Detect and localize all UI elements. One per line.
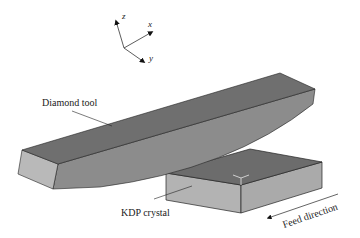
coordinate-axes: z x y	[116, 11, 153, 63]
diamond-tool-leader	[72, 111, 112, 126]
kdp-crystal-label: KDP crystal	[121, 207, 170, 218]
x-axis-arrow	[124, 32, 152, 48]
y-axis-label: y	[148, 53, 153, 63]
z-axis-label: z	[121, 11, 126, 21]
machining-diagram: z x y Diamond tool KDP crystal Feed dire…	[0, 0, 360, 238]
x-axis-label: x	[147, 19, 152, 29]
diamond-tool-label: Diamond tool	[42, 97, 97, 108]
feed-direction-label: Feed direction	[281, 201, 339, 230]
y-axis-arrow	[124, 48, 144, 62]
z-axis-arrow	[116, 21, 124, 48]
